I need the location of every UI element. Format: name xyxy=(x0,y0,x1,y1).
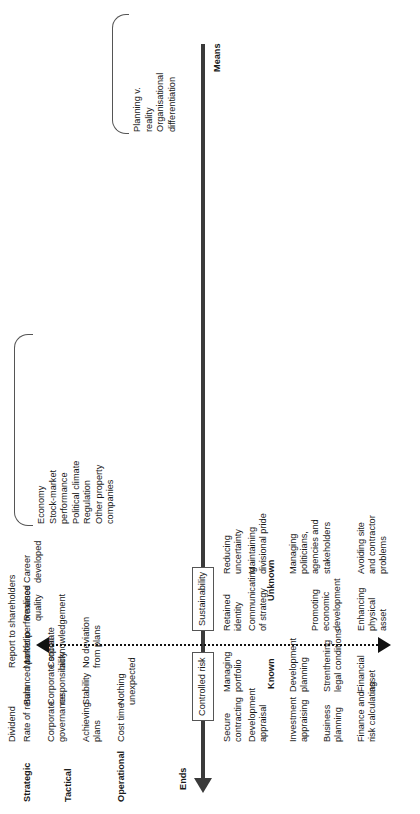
row-header-operational: Operational xyxy=(116,751,127,802)
bracket-external-factors xyxy=(14,334,33,526)
row-header-tactical: Tactical xyxy=(63,768,74,802)
cell-means-c8-r1: Retained identity xyxy=(222,594,244,631)
rotated-figure-wrapper: Ends Means Controlled risk Sustainabilit… xyxy=(0,0,420,814)
cell-ends-c2-r3: Stability xyxy=(81,673,92,705)
cell-means-c7-r2: Development planning xyxy=(288,638,310,692)
bracket-internal-tensions-label: Planning v. reality Organisational diffe… xyxy=(132,73,178,132)
divider-arrow-bottom xyxy=(378,637,391,653)
cell-ends-c4-r1: Realised quality xyxy=(22,585,44,621)
cell-means-c9-r3: Managing politicians, agencies and stake… xyxy=(288,519,333,574)
cell-means-c8-r4: Enhancing physical asset xyxy=(356,588,390,631)
cell-means-c6-r2: Development appraisal xyxy=(247,688,269,742)
zone-label-known: Known xyxy=(266,658,277,689)
top-header-dividend: Dividend xyxy=(7,706,18,742)
cell-means-c8-r2: Communicating of strategy xyxy=(247,567,269,631)
cell-ends-c5-r1: Career developed xyxy=(22,541,44,583)
cell-ends-c2-r4: Nothing unexpected xyxy=(116,657,138,705)
axis-box-controlled-risk: Controlled risk xyxy=(192,652,214,721)
cell-means-c7-r1: Managing portfolio xyxy=(222,652,244,692)
cell-means-c9-r2: Maintaining divisional pride xyxy=(247,513,269,574)
cell-ends-c3-r3: No deviation from plans xyxy=(81,617,103,668)
cell-means-c6-r3: Investment appraising xyxy=(288,697,310,742)
bracket-internal-tensions xyxy=(112,14,129,134)
cell-means-c7-r3: Strenthening legal conditions xyxy=(322,629,344,692)
diagram-canvas: Ends Means Controlled risk Sustainabilit… xyxy=(0,0,420,814)
cell-ends-c1-r3: Achieving plans xyxy=(81,702,103,742)
axis-label-ends: Ends xyxy=(178,768,189,790)
cell-means-c9-r4: Avoiding site and contractor problems xyxy=(356,515,390,574)
cell-means-c6-r4: Business planning xyxy=(322,705,344,742)
top-header-report-to-shareholders: Report to shareholders xyxy=(7,575,18,668)
row-header-strategic: Strategic xyxy=(22,763,33,802)
cell-means-c9-r1: Reducing uncertainty xyxy=(222,529,244,574)
cell-ends-c3-r2: Corporate acknowledgement xyxy=(46,594,68,668)
axis-box-sustainability: Sustainability xyxy=(192,567,214,631)
bracket-external-factors-label: Economy Stock-market performance Politic… xyxy=(36,461,117,524)
axis-label-means: Means xyxy=(212,43,223,72)
cell-ends-c1-r4: Cost time xyxy=(116,703,127,742)
cell-means-c8-r3: Promoting economic development xyxy=(310,578,344,631)
ends-arrowhead xyxy=(194,778,212,793)
cell-means-c7-r4: Financial asset xyxy=(356,655,378,692)
cell-means-c6-r1: Secure contracting xyxy=(222,697,244,742)
